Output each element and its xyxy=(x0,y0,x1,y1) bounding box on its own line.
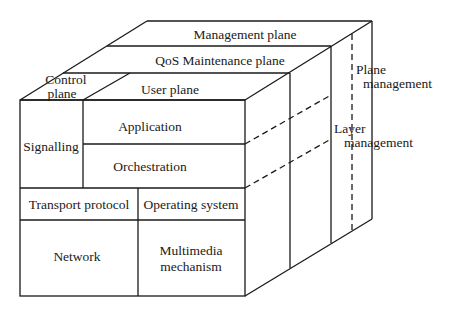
qos-plane-label: QoS Maintenance plane xyxy=(155,53,285,68)
application-label: Application xyxy=(118,119,182,134)
cube-diagram: Management plane QoS Maintenance plane C… xyxy=(0,0,449,313)
control-user-divider xyxy=(83,73,130,100)
layer-dashed-upper xyxy=(245,95,331,144)
multimedia-label-line1: Multimedia xyxy=(160,243,223,258)
orchestration-label: Orchestration xyxy=(113,159,187,174)
plane-management-label-line1: Plane xyxy=(356,62,386,77)
plane-management-label-line2: management xyxy=(363,76,432,91)
right-bottom-edge xyxy=(245,219,372,296)
multimedia-label-line2: mechanism xyxy=(160,259,222,274)
user-plane-label: User plane xyxy=(141,82,199,97)
layer-dashed-lower xyxy=(245,139,331,188)
control-plane-label-line1: Control xyxy=(45,72,87,87)
operating-system-label: Operating system xyxy=(144,197,239,212)
signalling-label: Signalling xyxy=(23,139,79,154)
transport-protocol-label: Transport protocol xyxy=(29,197,130,212)
network-label: Network xyxy=(53,249,100,264)
layer-management-label-line1: Layer xyxy=(334,121,366,136)
management-plane-label: Management plane xyxy=(193,27,296,42)
top-left-edge xyxy=(20,21,147,100)
layer-management-label-line2: management xyxy=(344,135,413,150)
control-plane-label-line2: plane xyxy=(47,86,76,101)
